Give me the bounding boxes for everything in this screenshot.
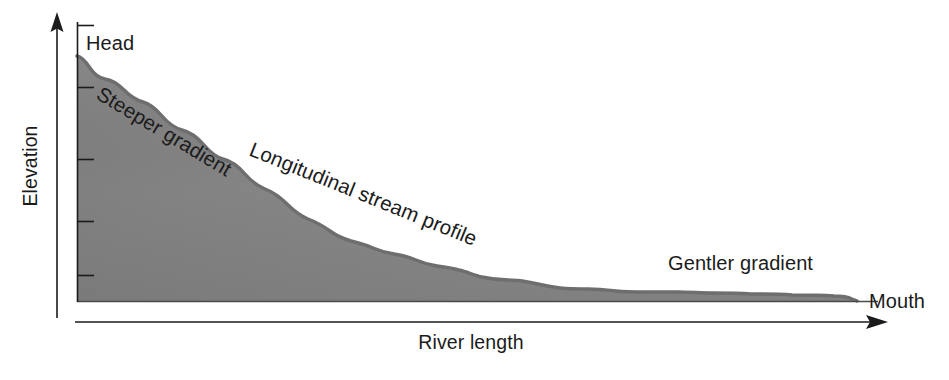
mouth-label: Mouth (869, 290, 925, 312)
gentler-gradient-label: Gentler gradient (668, 252, 813, 274)
river-length-arrow (75, 315, 888, 329)
stream-profile-svg: Elevation River length Head Mouth Steepe… (0, 0, 949, 380)
stream-profile-figure: Elevation River length Head Mouth Steepe… (0, 0, 949, 380)
x-axis-label: River length (418, 331, 523, 353)
y-axis-label: Elevation (19, 125, 41, 206)
head-label: Head (86, 32, 134, 54)
elevation-arrow (51, 12, 64, 318)
